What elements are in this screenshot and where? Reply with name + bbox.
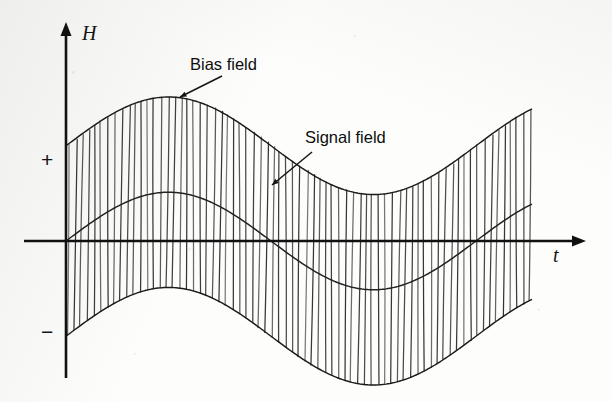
tick-label-negative: − — [41, 320, 53, 343]
t-axis-arrowhead — [572, 236, 586, 247]
bias-field-leader-line — [180, 76, 222, 97]
tick-label-positive: + — [41, 148, 53, 171]
h-axis — [61, 22, 72, 378]
bias-field-label: Bias field — [190, 55, 257, 73]
annotation-bias-field: Bias field — [180, 55, 257, 97]
signal-field-label: Signal field — [305, 128, 386, 146]
bias-field-envelope-lower — [66, 287, 532, 385]
figure-root: H t + − Bias field Signal field — [0, 0, 612, 402]
waveform-plot: H t + − Bias field Signal field — [0, 0, 612, 402]
annotation-signal-field: Signal field — [272, 128, 386, 185]
h-axis-label: H — [81, 22, 98, 44]
h-axis-arrowhead — [61, 22, 72, 36]
t-axis-label: t — [553, 244, 559, 266]
